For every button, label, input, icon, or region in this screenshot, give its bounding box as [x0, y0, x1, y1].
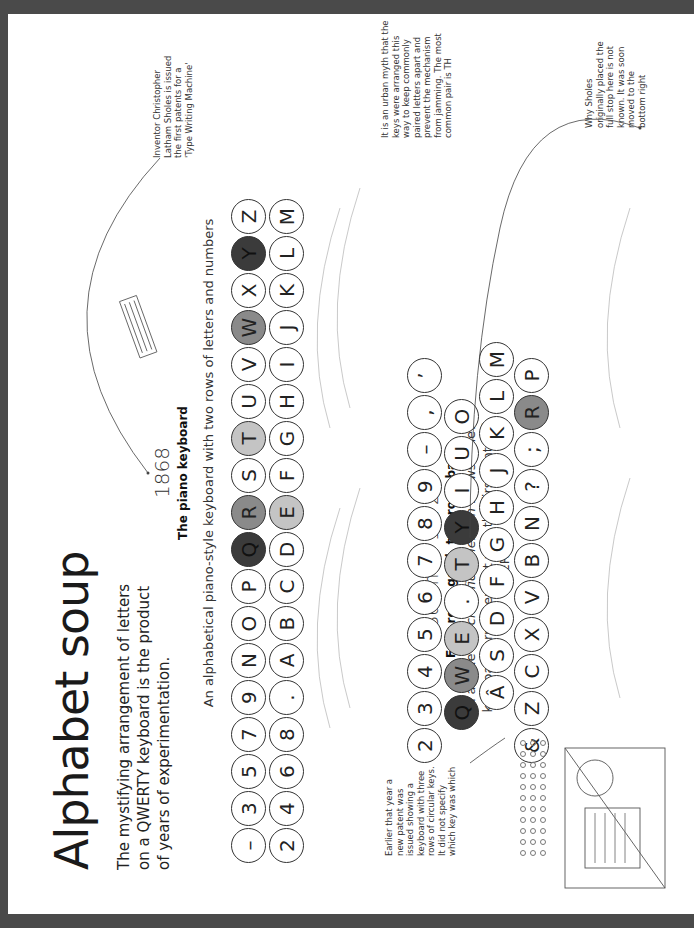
rotated-spread: Alphabet soup The mystifying arrangement… [0, 0, 694, 928]
typewriter-sketch-icon [119, 295, 156, 358]
typewriter-patent-drawing-icon [565, 748, 665, 888]
arc-patent-connector [87, 158, 160, 473]
arrow-earlier-note [470, 738, 505, 763]
connector-lines [0, 0, 694, 928]
arc-full-stop-connector [470, 119, 640, 538]
hand-sketch-icon [317, 188, 630, 728]
